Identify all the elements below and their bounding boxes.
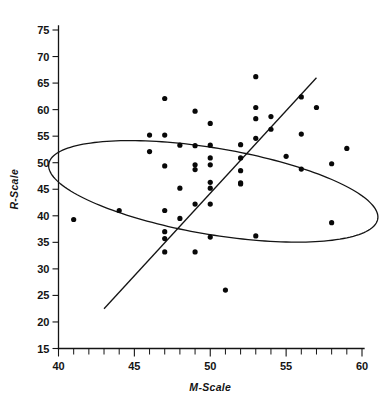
data-point	[177, 216, 182, 221]
x-axis-tick-marks	[59, 349, 363, 357]
confidence-ellipse	[49, 141, 378, 243]
data-point	[253, 116, 258, 121]
data-point	[238, 181, 243, 186]
x-tick-label: 50	[204, 360, 216, 372]
data-point	[238, 155, 243, 160]
y-tick-label: 45	[37, 183, 49, 195]
data-point	[162, 229, 167, 234]
data-point	[71, 217, 76, 222]
data-point	[284, 154, 289, 159]
data-point	[192, 109, 197, 114]
data-point	[162, 96, 167, 101]
data-point	[162, 249, 167, 254]
plot-canvas: 15202530354045505560657075 4045505560 M-…	[0, 0, 388, 403]
y-axis-tick-marks	[53, 30, 59, 349]
data-point	[177, 186, 182, 191]
y-tick-label: 55	[37, 130, 49, 142]
y-tick-label: 60	[37, 104, 49, 116]
x-tick-label: 45	[128, 360, 140, 372]
data-point	[177, 143, 182, 148]
data-point	[268, 114, 273, 119]
data-point	[238, 168, 243, 173]
y-axis-title: R-Scale	[8, 169, 20, 210]
data-point	[253, 136, 258, 141]
data-point	[208, 180, 213, 185]
data-point	[192, 202, 197, 207]
data-point	[208, 186, 213, 191]
data-point	[162, 163, 167, 168]
y-tick-label: 70	[37, 51, 49, 63]
data-points-group	[71, 74, 349, 293]
y-tick-label: 50	[37, 157, 49, 169]
data-point	[192, 162, 197, 167]
data-point	[208, 121, 213, 126]
data-point	[192, 249, 197, 254]
y-axis-tick-labels: 15202530354045505560657075	[37, 24, 49, 355]
x-tick-label: 40	[52, 360, 64, 372]
data-point	[208, 202, 213, 207]
y-tick-label: 35	[37, 236, 49, 248]
data-point	[314, 105, 319, 110]
x-axis-title: M-Scale	[189, 381, 231, 393]
data-point	[238, 142, 243, 147]
x-tick-label: 55	[280, 360, 292, 372]
plot-content	[49, 74, 378, 309]
y-tick-label: 20	[37, 316, 49, 328]
data-point	[117, 208, 122, 213]
y-tick-label: 40	[37, 210, 49, 222]
x-axis-tick-labels: 4045505560	[52, 360, 368, 372]
data-point	[329, 220, 334, 225]
data-point	[253, 105, 258, 110]
data-point	[147, 149, 152, 154]
y-tick-label: 15	[37, 343, 49, 355]
y-tick-label: 30	[37, 263, 49, 275]
regression-line	[104, 78, 316, 309]
scatter-plot-figure: 15202530354045505560657075 4045505560 M-…	[0, 0, 388, 403]
data-point	[208, 143, 213, 148]
data-point	[192, 167, 197, 172]
data-point	[268, 127, 273, 132]
data-point	[147, 133, 152, 138]
y-tick-label: 25	[37, 289, 49, 301]
data-point	[192, 143, 197, 148]
x-tick-label: 60	[356, 360, 368, 372]
data-point	[253, 74, 258, 79]
data-point	[299, 94, 304, 99]
data-point	[253, 233, 258, 238]
data-point	[329, 161, 334, 166]
y-tick-label: 65	[37, 77, 49, 89]
data-point	[208, 234, 213, 239]
data-point	[344, 146, 349, 151]
y-tick-label: 75	[37, 24, 49, 36]
data-point	[299, 131, 304, 136]
data-point	[162, 236, 167, 241]
data-point	[208, 162, 213, 167]
data-point	[162, 208, 167, 213]
data-point	[223, 288, 228, 293]
data-point	[162, 133, 167, 138]
data-point	[299, 166, 304, 171]
axes-group: 15202530354045505560657075 4045505560	[37, 24, 368, 372]
data-point	[208, 155, 213, 160]
